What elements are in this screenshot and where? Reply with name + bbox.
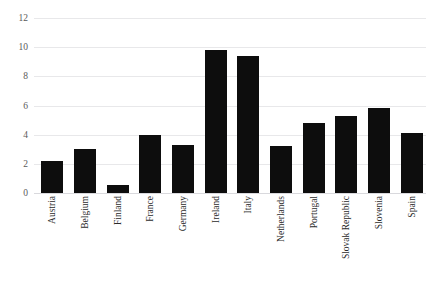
- x-tick-label: Slovak Republic: [341, 196, 351, 259]
- y-tick-label: 12: [19, 13, 29, 23]
- x-tick-label-wrapper: Slovenia: [368, 196, 390, 280]
- bar: [107, 185, 129, 193]
- x-tick-label-wrapper: France: [139, 196, 161, 280]
- gridline-0: [34, 193, 426, 194]
- x-tick-label-wrapper: Spain: [401, 196, 423, 280]
- x-tick-label-wrapper: Finland: [107, 196, 129, 280]
- bar: [303, 123, 325, 193]
- y-tick-label: 4: [23, 130, 28, 140]
- x-tick-label: Germany: [178, 196, 188, 231]
- x-tick-label: Austria: [47, 196, 57, 224]
- x-tick-label: Finland: [113, 196, 123, 225]
- x-tick-label-wrapper: Austria: [41, 196, 63, 280]
- y-tick-label: 2: [23, 159, 28, 169]
- bar: [335, 116, 357, 193]
- x-tick-label: Ireland: [211, 196, 221, 223]
- x-tick-label: Spain: [407, 196, 417, 218]
- bar: [368, 108, 390, 193]
- y-tick-label: 10: [19, 42, 29, 52]
- x-tick-label: Italy: [243, 196, 253, 213]
- y-axis: 121086420: [0, 18, 30, 193]
- bar: [237, 56, 259, 193]
- x-tick-label-wrapper: Belgium: [74, 196, 96, 280]
- bar: [270, 146, 292, 193]
- bar: [401, 133, 423, 193]
- y-tick-label: 6: [23, 101, 28, 111]
- x-tick-label: France: [145, 196, 155, 222]
- x-tick-label-wrapper: Netherlands: [270, 196, 292, 280]
- bars-group: [34, 18, 426, 193]
- x-axis: AustriaBelgiumFinlandFranceGermanyIrelan…: [34, 196, 426, 282]
- bar-chart: 121086420 AustriaBelgiumFinlandFranceGer…: [0, 0, 432, 282]
- x-tick-label: Portugal: [309, 196, 319, 228]
- x-tick-label-wrapper: Germany: [172, 196, 194, 280]
- x-tick-label-wrapper: Italy: [237, 196, 259, 280]
- bar: [139, 135, 161, 193]
- x-tick-label: Slovenia: [374, 196, 384, 229]
- bar: [41, 161, 63, 193]
- y-tick-label: 0: [23, 188, 28, 198]
- x-tick-label-wrapper: Slovak Republic: [335, 196, 357, 280]
- x-tick-label: Netherlands: [276, 196, 286, 242]
- x-tick-label-wrapper: Ireland: [205, 196, 227, 280]
- y-tick-label: 8: [23, 71, 28, 81]
- x-tick-label-wrapper: Portugal: [303, 196, 325, 280]
- x-tick-label: Belgium: [80, 196, 90, 229]
- bar: [74, 149, 96, 193]
- bar: [205, 50, 227, 193]
- bar: [172, 145, 194, 193]
